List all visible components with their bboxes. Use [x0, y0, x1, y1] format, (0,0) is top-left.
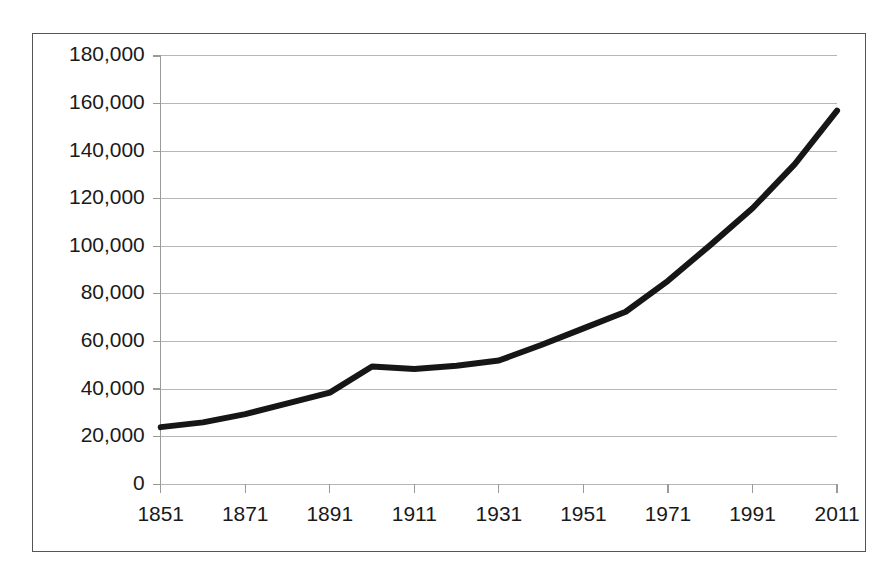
x-axis-tick-label: 1871 — [222, 502, 269, 525]
x-axis-tick-label: 1971 — [645, 502, 692, 525]
x-axis-tick-label: 1931 — [476, 502, 523, 525]
x-axis-tick-label: 2011 — [815, 502, 860, 525]
y-axis-tick-label: 160,000 — [69, 90, 145, 113]
plot-area: 180,000160,000140,000120,000100,00080,00… — [33, 34, 865, 551]
y-axis-tick-label: 180,000 — [69, 42, 145, 65]
x-axis-tick-label: 1891 — [306, 502, 353, 525]
y-axis-tick-label: 20,000 — [81, 423, 145, 446]
x-axis-tick-label: 1851 — [137, 502, 184, 525]
line-chart-svg: 180,000160,000140,000120,000100,00080,00… — [33, 34, 865, 551]
y-axis-tick-label: 60,000 — [81, 328, 145, 351]
x-axis-tick-label: 1911 — [392, 502, 437, 525]
y-axis-tick-label: 120,000 — [69, 185, 145, 208]
x-axis-tick-label: 1951 — [560, 502, 607, 525]
population-data-line — [161, 111, 837, 428]
chart-figure: 180,000160,000140,000120,000100,00080,00… — [32, 33, 866, 552]
y-axis-tick-label: 0 — [133, 471, 145, 494]
y-axis-tick-label: 80,000 — [81, 280, 145, 303]
y-axis-tick-label: 40,000 — [81, 376, 145, 399]
y-axis-tick-label: 140,000 — [69, 138, 145, 161]
y-axis-tick-label: 100,000 — [69, 233, 145, 256]
x-axis-tick-label: 1991 — [729, 502, 776, 525]
